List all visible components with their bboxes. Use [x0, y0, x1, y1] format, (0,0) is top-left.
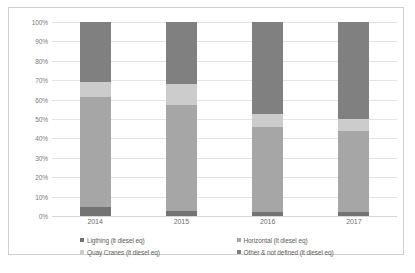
- gridline: [52, 216, 397, 217]
- y-axis-tick-label: 60%: [35, 96, 48, 103]
- legend-label: Quay Cranes (lt diesel eq): [87, 249, 160, 256]
- legend-swatch-icon: [237, 238, 241, 242]
- bar-segment[interactable]: [80, 82, 111, 97]
- bar-stack: [80, 22, 111, 216]
- legend-item[interactable]: Other & not defined (lt diesel eq): [227, 246, 398, 258]
- bar-segment[interactable]: [166, 211, 197, 216]
- legend-swatch-icon: [80, 250, 84, 254]
- bar-group[interactable]: [338, 22, 369, 216]
- legend-label: Horizontal (lt diesel eq): [244, 237, 308, 244]
- legend-swatch-icon: [237, 250, 241, 254]
- legend-item[interactable]: Horizontal (lt diesel eq): [227, 234, 398, 246]
- legend-label: Other & not defined (lt diesel eq): [244, 249, 334, 256]
- y-axis-tick-label: 100%: [32, 19, 48, 26]
- y-axis-tick-label: 70%: [35, 77, 48, 84]
- bar-group[interactable]: [80, 22, 111, 216]
- bar-segment[interactable]: [338, 119, 369, 131]
- bar-segment[interactable]: [166, 105, 197, 210]
- bar-segment[interactable]: [80, 97, 111, 207]
- chart-legend: Ligthing (lt diesel eq)Horizontal (lt di…: [52, 234, 397, 258]
- bar-segment[interactable]: [166, 22, 197, 84]
- bar-segment[interactable]: [338, 131, 369, 212]
- bar-series-container: [52, 22, 397, 216]
- bar-segment[interactable]: [252, 212, 283, 216]
- x-axis-tick-label: 2016: [225, 218, 311, 225]
- legend-item[interactable]: Quay Cranes (lt diesel eq): [52, 246, 223, 258]
- x-axis-tick-label: 2014: [52, 218, 138, 225]
- x-axis: 2014201520162017: [52, 218, 397, 232]
- y-axis-tick-label: 80%: [35, 57, 48, 64]
- bar-segment[interactable]: [338, 212, 369, 216]
- bar-segment[interactable]: [80, 22, 111, 82]
- y-axis-tick-label: 40%: [35, 135, 48, 142]
- y-axis: 0%10%20%30%40%50%60%70%80%90%100%: [17, 22, 50, 216]
- bar-stack: [252, 22, 283, 216]
- bar-segment[interactable]: [252, 22, 283, 114]
- legend-item[interactable]: Ligthing (lt diesel eq): [52, 234, 223, 246]
- y-axis-tick-label: 20%: [35, 174, 48, 181]
- y-axis-tick-label: 30%: [35, 154, 48, 161]
- y-axis-tick-label: 10%: [35, 193, 48, 200]
- bar-segment[interactable]: [252, 114, 283, 126]
- bar-segment[interactable]: [80, 207, 111, 216]
- bar-group[interactable]: [166, 22, 197, 216]
- x-axis-tick-label: 2015: [138, 218, 224, 225]
- legend-label: Ligthing (lt diesel eq): [87, 237, 145, 244]
- bar-stack: [338, 22, 369, 216]
- y-axis-tick-label: 90%: [35, 38, 48, 45]
- chart-frame: 0%10%20%30%40%50%60%70%80%90%100% 201420…: [8, 7, 404, 255]
- bar-group[interactable]: [252, 22, 283, 216]
- bar-segment[interactable]: [166, 84, 197, 105]
- plot-area: [52, 22, 397, 216]
- bar-segment[interactable]: [338, 22, 369, 119]
- bar-segment[interactable]: [252, 127, 283, 212]
- y-axis-tick-label: 0%: [39, 213, 48, 220]
- y-axis-tick-label: 50%: [35, 116, 48, 123]
- legend-swatch-icon: [80, 238, 84, 242]
- bar-stack: [166, 22, 197, 216]
- x-axis-tick-label: 2017: [311, 218, 397, 225]
